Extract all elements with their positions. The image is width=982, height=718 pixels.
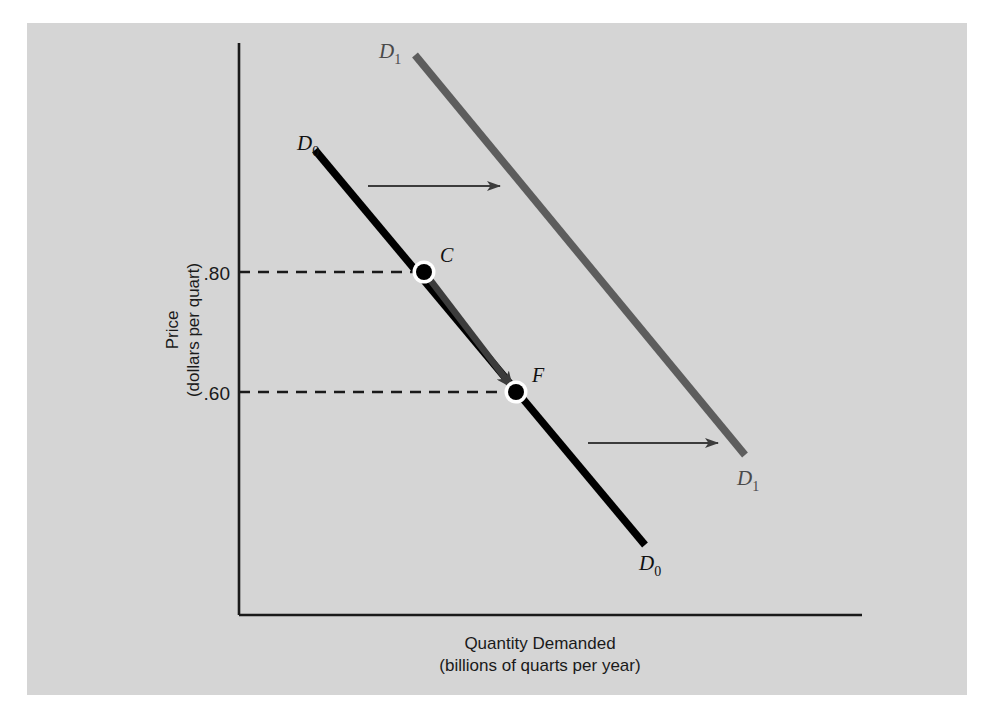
point-marker-c <box>413 261 436 284</box>
curve-label-d1-top: D1 <box>378 39 401 67</box>
x-axis-title-line2: (billions of quarts per year) <box>439 656 640 675</box>
y-axis-title: Price (dollars per quart) <box>163 263 203 397</box>
x-axis-title: Quantity Demanded (billions of quarts pe… <box>439 634 640 675</box>
y-tick-label-080: .80 <box>204 263 230 284</box>
movement-arrow-c-to-f <box>428 277 512 387</box>
curve-label-d1-top-letter: D <box>378 39 394 63</box>
curve-label-d1-bottom: D1 <box>736 466 759 494</box>
curve-label-d0-top-letter: D <box>296 131 312 155</box>
price-guide-lines <box>239 272 516 392</box>
y-axis-title-line1: Price <box>163 311 182 350</box>
axis-lines <box>239 43 862 615</box>
demand-curve-d1 <box>415 55 745 455</box>
point-f-dot <box>508 384 524 400</box>
curve-label-d1-bottom-letter: D <box>736 466 752 490</box>
curve-label-d0-bottom-letter: D <box>638 551 654 575</box>
point-label-c: C <box>440 244 454 266</box>
figure-root: .80 .60 C F D0 D0 D1 <box>0 0 982 718</box>
y-axis-title-line2: (dollars per quart) <box>184 263 203 397</box>
curve-label-d0-bottom-subscript: 0 <box>654 564 661 579</box>
curve-label-d0-top-subscript: 0 <box>312 144 319 159</box>
x-axis-title-line1: Quantity Demanded <box>464 634 615 653</box>
curve-label-d0-bottom: D0 <box>638 551 661 579</box>
point-label-f: F <box>531 364 545 386</box>
point-c-dot <box>416 264 432 280</box>
y-tick-label-060: .60 <box>204 383 230 404</box>
demand-curve-chart: .80 .60 C F D0 D0 D1 <box>0 0 982 718</box>
point-marker-f <box>505 381 528 404</box>
curve-label-d1-bottom-subscript: 1 <box>752 479 759 494</box>
curve-label-d1-top-subscript: 1 <box>394 52 401 67</box>
curve-label-d0-top: D0 <box>296 131 319 159</box>
